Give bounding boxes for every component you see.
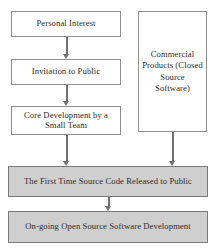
arrow-head-icon xyxy=(63,161,69,166)
arrow-head-icon xyxy=(169,161,175,166)
arrow-shaft xyxy=(66,85,68,102)
node-ongoing-open-source-development-label: On-going Open Source Software Developmen… xyxy=(22,222,193,232)
node-ongoing-open-source-development: On-going Open Source Software Developmen… xyxy=(8,211,208,243)
node-first-time-source-release-label: The First Time Source Code Released to P… xyxy=(21,177,195,187)
arrow-shaft xyxy=(172,132,174,162)
node-commercial-products: Commercial Products (Closed Source Softw… xyxy=(138,11,207,132)
arrow-shaft xyxy=(66,135,68,162)
node-invitation-to-public: Invitation to Public xyxy=(11,59,121,85)
node-core-development: Core Development by a Small Team xyxy=(11,106,121,135)
node-commercial-products-label: Commercial Products (Closed Source Softw… xyxy=(139,49,206,94)
arrow-commercial-products-to-source-release xyxy=(172,132,174,166)
node-first-time-source-release: The First Time Source Code Released to P… xyxy=(8,166,208,197)
arrow-invitation-to-core-development xyxy=(66,85,68,106)
node-personal-interest-label: Personal Interest xyxy=(33,19,98,29)
arrow-head-icon xyxy=(105,206,111,211)
node-core-development-label: Core Development by a Small Team xyxy=(12,111,120,130)
arrow-personal-interest-to-invitation xyxy=(66,37,68,59)
node-personal-interest: Personal Interest xyxy=(11,11,121,37)
arrow-core-development-to-source-release xyxy=(66,135,68,166)
arrow-source-release-to-ongoing-development xyxy=(108,197,110,211)
arrow-head-icon xyxy=(63,101,69,106)
arrow-shaft xyxy=(66,37,68,55)
arrow-head-icon xyxy=(63,54,69,59)
flowchart-diagram: Personal Interest Invitation to Public C… xyxy=(0,0,220,251)
node-invitation-to-public-label: Invitation to Public xyxy=(29,67,103,77)
